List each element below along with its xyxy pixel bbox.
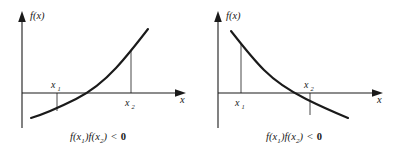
svg-text:2: 2 xyxy=(311,85,315,92)
caption-relation: < xyxy=(110,131,118,142)
caption-relation: < xyxy=(306,131,314,142)
x1-label: x 1 xyxy=(50,79,61,92)
y-axis-label: f(x) xyxy=(226,10,241,22)
x2-label: x 2 xyxy=(124,97,136,110)
caption-mid-open: (x xyxy=(92,131,100,142)
caption-mid-close: ) xyxy=(104,131,108,142)
x-axis xyxy=(22,89,186,97)
y-axis-label: f(x) xyxy=(30,10,45,22)
svg-text:x: x xyxy=(303,79,309,90)
svg-text:1: 1 xyxy=(58,85,61,92)
caption-rhs: 0 xyxy=(121,131,126,142)
left-panel-caption: f(x1)f(x2) < 0 xyxy=(0,131,196,145)
caption-mid-close: ) xyxy=(300,131,304,142)
y-axis xyxy=(18,11,26,128)
x-axis-label: x xyxy=(376,94,382,105)
y-axis xyxy=(214,11,222,128)
caption-mid-open: (x xyxy=(288,131,296,142)
svg-text:1: 1 xyxy=(242,103,245,110)
function-curve xyxy=(31,29,148,118)
function-curve xyxy=(231,31,348,118)
right-panel: f(x) x x 1 x 2 f(x1)f(x2) < 0 xyxy=(196,0,392,164)
bisection-bracketing-figure: f(x) x x 1 x 2 f(x1)f(x2) < 0 xyxy=(0,0,393,164)
x1-label: x 1 xyxy=(234,97,245,110)
x2-label: x 2 xyxy=(303,79,315,92)
left-panel: f(x) x x 1 x 2 f(x1)f(x2) < 0 xyxy=(0,0,196,164)
left-panel-plot: f(x) x x 1 x 2 xyxy=(0,0,196,132)
svg-text:2: 2 xyxy=(132,103,136,110)
right-panel-caption: f(x1)f(x2) < 0 xyxy=(196,131,392,145)
right-panel-plot: f(x) x x 1 x 2 xyxy=(196,0,393,132)
caption-rhs: 0 xyxy=(317,131,322,142)
svg-text:x: x xyxy=(234,97,240,108)
svg-text:x: x xyxy=(124,97,130,108)
x-axis-label: x xyxy=(179,94,185,105)
svg-text:x: x xyxy=(50,79,56,90)
